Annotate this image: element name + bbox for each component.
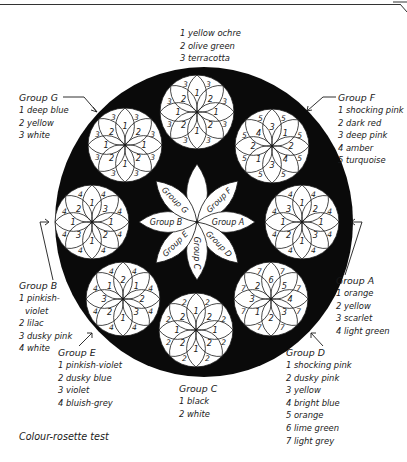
figure-caption: Colour-rosette test [19, 431, 109, 442]
rosette-center-dot [124, 144, 127, 147]
legend-group-b: Group B 1 pinkish- violet 2 lilac 3 dusk… [19, 279, 72, 355]
rosette-center-dot [196, 111, 199, 114]
rosette-inner-number: 3 [101, 294, 106, 304]
rosette-inner-number: 4 [283, 154, 288, 164]
rosette-outer-number: 4 [93, 307, 98, 316]
rosette-outer-number: 4 [62, 207, 67, 216]
rosette-inner-number: 2 [139, 294, 144, 304]
rosette-outer-number: 4 [101, 246, 106, 255]
rosette-inner-number: 6 [268, 275, 273, 285]
arrowhead-group-g [91, 107, 97, 112]
rosette-inner-number: 2 [207, 338, 212, 348]
rosette-outer-number: 5 [258, 170, 263, 179]
rosette-outer-number: 3 [111, 169, 116, 178]
rosette-outer-number: 4 [78, 190, 83, 199]
legend-item: 1 yellow ochre [180, 27, 241, 40]
legend-item: 1 shocking pink [338, 104, 404, 117]
rosette-inner-number: 2 [268, 313, 273, 323]
rosette-outer-number: 7 [241, 307, 246, 316]
rosette-inner-number: 2 [181, 94, 186, 104]
rosette-inner-number: 2 [180, 338, 185, 348]
legend-title: Group G [19, 91, 69, 104]
legend-item: 5 turquoise [338, 154, 404, 167]
rosette-inner-number: 2 [107, 307, 112, 317]
rosette-outer-number: 7 [257, 267, 262, 276]
legend-item: 1 shocking pink [286, 359, 352, 372]
rosette-inner-number: 1 [193, 344, 198, 354]
rosette-inner-number: 2 [76, 204, 81, 214]
legend-item: 2 olive green [180, 40, 241, 53]
rosette-inner-number: 2 [250, 141, 255, 151]
rosette-outer-number: 4 [327, 230, 332, 239]
rosette-outer-number: 4 [311, 190, 316, 199]
legend-item: 2 lilac [19, 317, 72, 330]
rosette-inner-number: 1 [122, 159, 127, 169]
rosette-C: 1212121222222222 [159, 293, 233, 367]
rosette-inner-number: 1 [134, 281, 139, 291]
arrow-group-d [311, 333, 323, 346]
rosette-inner-number: 3 [313, 230, 318, 240]
rosette-center-dot [195, 329, 198, 332]
legend-item: 2 dusky pink [286, 372, 352, 385]
legend-item: 2 yellow [19, 117, 69, 130]
rosette-inner-number: 1 [175, 107, 180, 117]
legend-item: 2 white [179, 408, 217, 421]
rosette-inner-number: 1 [299, 198, 304, 208]
rosette-inner-number: 3 [269, 122, 274, 132]
center-flower: Group FGroup AGroup DGroup CGroup EGroup… [139, 164, 255, 280]
legend-item: 5 orange [286, 409, 352, 422]
center-petal-label: Group B [150, 218, 183, 227]
legend-title: Group A [336, 274, 390, 287]
rosette-inner-number: 1 [174, 325, 179, 335]
rosette-outer-number: 3 [183, 80, 188, 89]
rosette-outer-number: 4 [327, 207, 332, 216]
rosette-outer-number: 4 [272, 207, 277, 216]
legend-item: 1 orange [336, 287, 390, 300]
legend-title: Group C [179, 382, 217, 395]
rosette-inner-number: 3 [103, 204, 108, 214]
rosette-outer-number: 7 [257, 323, 262, 332]
rosette-inner-number: 1 [256, 154, 261, 164]
rosette-E: 2123123144444444 [86, 262, 160, 336]
rosette-outer-number: 3 [111, 113, 116, 122]
rosette-inner-number: 2 [103, 230, 108, 240]
legend-item: 4 bright blue [286, 397, 352, 410]
legend-item: 3 white [19, 129, 69, 142]
rosette-outer-number: 7 [296, 284, 301, 293]
legend-item: 2 dusky blue [58, 372, 122, 385]
rosette-inner-number: 1 [280, 217, 285, 227]
rosette-center-dot [271, 145, 274, 148]
rosette-outer-number: 5 [258, 114, 263, 123]
legend-title: Group B [19, 279, 72, 292]
rosette-inner-number: 2 [180, 312, 185, 322]
rosette-inner-number: 3 [76, 230, 81, 240]
rosette-B: 1312131244444444 [55, 185, 129, 259]
rosette-inner-number: 4 [256, 128, 261, 138]
rosette-F: 3124312455555555 [235, 109, 309, 183]
rosette-inner-number: 1 [103, 140, 108, 150]
legend-item: 2 dark red [338, 117, 404, 130]
rosette-outer-number: 7 [280, 267, 285, 276]
rosette-inner-number: 5 [282, 281, 287, 291]
legend-item: 2 yellow [336, 300, 390, 313]
rosette-outer-number: 4 [132, 323, 137, 332]
legend-item: 1 deep blue [19, 104, 69, 117]
rosette-outer-number: 2 [205, 354, 210, 363]
rosette-inner-number: 1 [89, 236, 94, 246]
legend-item: 3 terracotta [180, 52, 241, 65]
rosette-inner-number: 1 [141, 140, 146, 150]
rosette-outer-number: 7 [296, 307, 301, 316]
legend-item: 1 pinkish-violet [58, 359, 122, 372]
arrow-group-e [79, 333, 92, 346]
legend-item: 3 scarlet [336, 312, 390, 325]
rosette-inner-number: 1 [193, 306, 198, 316]
rosette-A: 1213121344444444 [265, 185, 339, 259]
rosette-outer-number: 4 [132, 267, 137, 276]
legend-title: Group E [58, 346, 122, 359]
rosette-outer-number: 4 [272, 230, 277, 239]
rosette-outer-number: 3 [134, 169, 139, 178]
rosette-outer-number: 5 [281, 170, 286, 179]
legend-top: 1 yellow ochre 2 olive green 3 terracott… [180, 27, 241, 65]
rosette-outer-number: 2 [205, 298, 210, 307]
rosette-outer-number: 4 [288, 246, 293, 255]
